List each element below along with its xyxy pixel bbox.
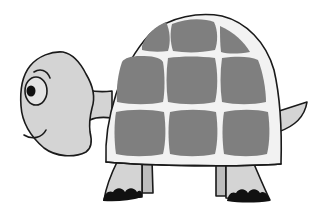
pupil (27, 86, 36, 97)
shell-plate (115, 110, 166, 157)
shell-plate (169, 110, 218, 157)
back-leg-rear (216, 165, 226, 196)
shell-plate (167, 57, 218, 105)
shell-plate (117, 56, 165, 104)
turtle-illustration (0, 0, 326, 214)
shell-plate (223, 110, 270, 157)
shell-plate (221, 57, 267, 105)
shell-plate (171, 19, 218, 52)
